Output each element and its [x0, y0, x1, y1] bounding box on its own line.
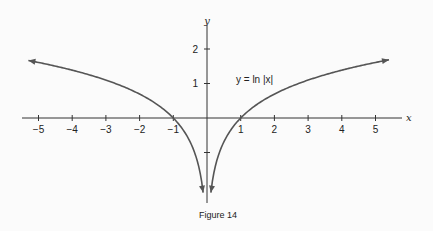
- axes: [22, 25, 402, 203]
- arrow-left-bottom-icon: [199, 185, 205, 192]
- y-tick-label: 2: [192, 44, 198, 55]
- x-tick-label: 4: [339, 124, 345, 135]
- y-tick-label: 1: [192, 78, 198, 89]
- arrow-left-end-icon: [28, 59, 35, 65]
- x-tick-label: 2: [272, 124, 278, 135]
- x-tick-label: −5: [33, 124, 45, 135]
- arrow-right-bottom-icon: [209, 185, 215, 192]
- x-tick-label: 3: [305, 124, 311, 135]
- x-axis-label: x: [406, 112, 412, 123]
- function-label: y = ln |x|: [236, 74, 273, 85]
- x-tick-label: −2: [134, 124, 146, 135]
- curves: [28, 58, 389, 192]
- x-tick-label: −1: [168, 124, 180, 135]
- x-tick-label: 5: [373, 124, 379, 135]
- x-tick-label: 1: [238, 124, 244, 135]
- arrow-right-end-icon: [382, 58, 389, 64]
- x-tick-label: −4: [66, 124, 78, 135]
- y-axis-label: y: [203, 15, 210, 26]
- plot-area: x y y = ln |x| Figure 14 −5−4−3−2−112345…: [0, 0, 433, 231]
- figure: x y y = ln |x| Figure 14 −5−4−3−2−112345…: [0, 0, 433, 231]
- x-tick-label: −3: [100, 124, 112, 135]
- figure-caption: Figure 14: [199, 210, 237, 220]
